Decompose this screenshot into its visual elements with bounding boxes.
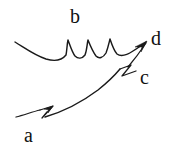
figure-label-d: d [151,28,161,48]
upper-scalloped-curve [15,39,146,60]
lower-arc-left-segment [16,110,40,117]
figure-container: a b c d [0,0,172,154]
figure-label-b: b [70,6,80,26]
lower-arc-main-curve [45,69,120,117]
figure-label-a: a [24,125,33,145]
figure-label-c: c [140,67,149,87]
